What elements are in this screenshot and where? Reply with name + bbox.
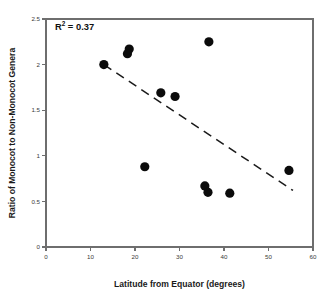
x-tick-label: 20 bbox=[132, 253, 139, 260]
y-axis-title: Ratio of Monocot to Non-Monocot Genera bbox=[7, 48, 17, 219]
x-tick-label: 30 bbox=[176, 253, 183, 260]
y-tick-label: 0 bbox=[37, 243, 41, 250]
trend-line bbox=[104, 65, 293, 191]
y-tick-label: 1 bbox=[37, 152, 41, 159]
data-point bbox=[204, 37, 213, 46]
x-tick-label: 0 bbox=[44, 253, 48, 260]
x-tick-label: 60 bbox=[310, 253, 317, 260]
scatter-plot: 00.511.522.50102030405060 R2 = 0.37 Lati… bbox=[0, 0, 329, 297]
y-tick-label: 0.5 bbox=[31, 198, 40, 205]
regression-line bbox=[104, 65, 293, 191]
x-tick-label: 50 bbox=[265, 253, 272, 260]
data-point bbox=[156, 88, 165, 97]
y-tick-label: 2.5 bbox=[31, 15, 40, 22]
data-point bbox=[123, 49, 132, 58]
axis-ticks bbox=[42, 19, 313, 251]
plot-frame bbox=[46, 19, 313, 247]
data-point bbox=[284, 166, 293, 175]
data-point bbox=[140, 162, 149, 171]
data-point bbox=[99, 60, 108, 69]
data-point bbox=[203, 188, 212, 197]
data-point bbox=[170, 92, 179, 101]
plot-axes bbox=[46, 19, 313, 247]
x-axis-title: Latitude from Equator (degrees) bbox=[114, 279, 245, 289]
x-tick-label: 40 bbox=[221, 253, 228, 260]
axis-tick-labels: 00.511.522.50102030405060 bbox=[31, 15, 317, 260]
y-tick-label: 2 bbox=[37, 61, 41, 68]
r-squared-annotation: R2 = 0.37 bbox=[55, 20, 94, 32]
data-points bbox=[99, 37, 293, 198]
x-tick-label: 10 bbox=[87, 253, 94, 260]
chart-figure: 00.511.522.50102030405060 R2 = 0.37 Lati… bbox=[0, 0, 329, 297]
data-point bbox=[225, 189, 234, 198]
y-tick-label: 1.5 bbox=[31, 106, 40, 113]
r-squared-label: R2 = 0.37 bbox=[55, 20, 94, 32]
axis-titles: Latitude from Equator (degrees)Ratio of … bbox=[7, 48, 245, 289]
